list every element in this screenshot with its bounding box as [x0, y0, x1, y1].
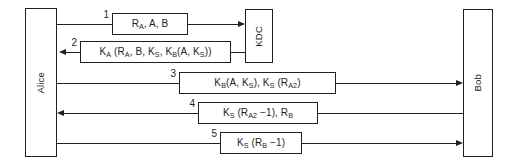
message-wire-5-left — [57, 143, 220, 144]
arrow-head-4 — [57, 110, 64, 116]
message-wire-1-left — [57, 24, 112, 25]
message-text-4: KS (RA2 −1), RB — [223, 108, 293, 118]
message-text-5: KS (RB −1) — [237, 138, 285, 148]
message-text-2: KA (RA, B, KS, KB(A, KS)) — [99, 47, 211, 57]
arrow-head-1 — [238, 21, 245, 27]
protocol-sequence-diagram: Alice KDC Bob RA, A, B 1 KA (RA, B, KS, … — [0, 0, 517, 167]
message-wire-3-right — [336, 83, 456, 84]
message-row-4: KS (RA2 −1), RB 4 — [0, 102, 517, 124]
message-box-1: RA, A, B — [112, 13, 188, 35]
message-number-1: 1 — [103, 10, 112, 20]
message-row-3: KB(A, KS), KS (RA2) 3 — [0, 72, 517, 94]
message-wire-3-left — [57, 83, 179, 84]
message-row-5: KS (RB −1) 5 — [0, 132, 517, 154]
message-row-1: RA, A, B 1 — [0, 13, 517, 35]
message-number-4: 4 — [189, 99, 198, 109]
message-wire-5-right — [302, 143, 456, 144]
message-box-4: KS (RA2 −1), RB — [198, 102, 318, 124]
message-text-3: KB(A, KS), KS (RA2) — [214, 78, 300, 88]
message-number-3: 3 — [170, 69, 179, 79]
message-wire-1-right — [188, 24, 238, 25]
message-number-2: 2 — [71, 38, 80, 48]
message-wire-4-right — [318, 113, 463, 114]
message-box-2: KA (RA, B, KS, KB(A, KS)) — [80, 41, 231, 63]
message-wire-2-left — [66, 52, 80, 53]
message-wire-2-right — [231, 52, 245, 53]
arrow-head-5 — [456, 140, 463, 146]
message-number-5: 5 — [211, 129, 220, 139]
message-row-2: KA (RA, B, KS, KB(A, KS)) 2 — [0, 41, 517, 63]
arrow-head-2 — [59, 49, 66, 55]
message-box-3: KB(A, KS), KS (RA2) — [179, 72, 336, 94]
message-box-5: KS (RB −1) — [220, 132, 302, 154]
message-text-1: RA, A, B — [132, 19, 169, 29]
message-wire-4-left — [64, 113, 198, 114]
arrow-head-3 — [456, 80, 463, 86]
